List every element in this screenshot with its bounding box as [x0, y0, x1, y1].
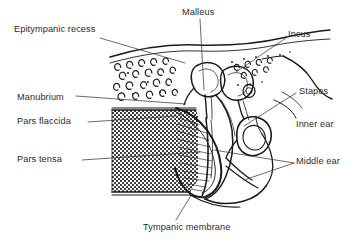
label-malleus: Malleus — [182, 7, 214, 18]
label-manubrium: Manubrium — [17, 92, 64, 103]
leader-stapes — [244, 93, 296, 126]
label-incus: Incus — [288, 29, 310, 40]
leader-tympanic-membrane — [176, 194, 192, 220]
label-tympanic-membrane: Tympanic membrane — [143, 222, 230, 233]
leader-incus — [236, 38, 286, 72]
leader-middle-ear-2 — [244, 163, 294, 180]
label-pars-tensa: Pars tensa — [17, 154, 62, 165]
ear-anatomy-figure: Epitympanic recess Manubrium Pars flacci… — [0, 0, 358, 243]
leader-malleus — [200, 19, 204, 90]
label-middle-ear: Middle ear — [296, 156, 340, 167]
incus-bone — [220, 66, 253, 120]
label-epitympanic-recess: Epitympanic recess — [14, 24, 95, 35]
illustration-ink — [76, 19, 332, 220]
external-canal-wall — [112, 108, 198, 195]
leader-manubrium — [76, 96, 186, 104]
label-stapes: Stapes — [299, 86, 328, 97]
inner-ear-margin — [274, 92, 302, 118]
middle-ear-cavity — [190, 95, 273, 207]
label-pars-flaccida: Pars flaccida — [17, 116, 71, 127]
cancellous-bone-stipple — [114, 58, 178, 100]
label-inner-ear: Inner ear — [296, 119, 334, 130]
